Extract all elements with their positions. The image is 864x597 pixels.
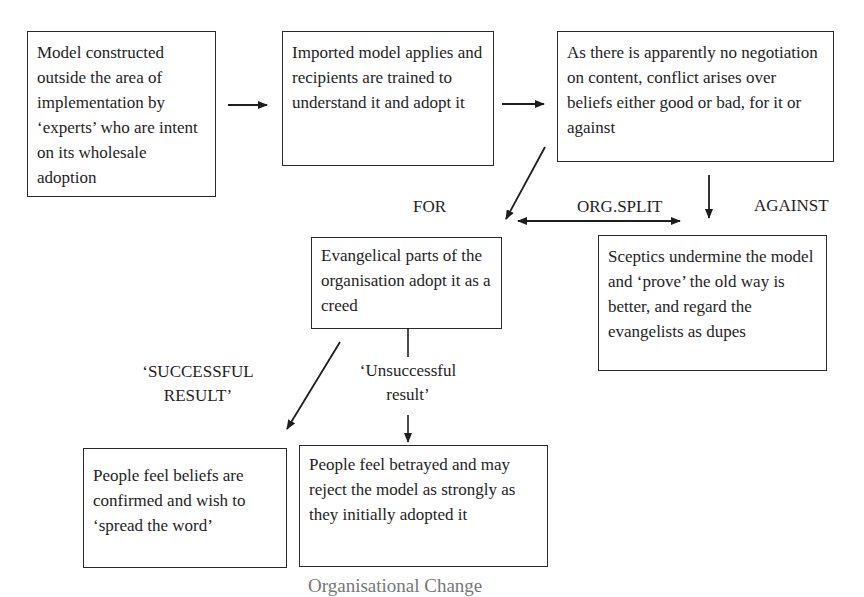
- label-against: AGAINST: [754, 194, 829, 218]
- box-model-constructed: Model constructed outside the area of im…: [27, 31, 216, 197]
- figure-caption-clipped: Organisational Change: [308, 575, 482, 597]
- box-evangelical-text: Evangelical parts of the organisation ad…: [321, 246, 491, 315]
- figure-caption-text: Organisational Change: [308, 575, 482, 596]
- label-unsuccessful-line2: result’: [343, 383, 473, 407]
- box-imported-model: Imported model applies and recipients ar…: [282, 31, 494, 166]
- box-betrayed: People feel betrayed and may reject the …: [299, 445, 548, 567]
- box-sceptics: Sceptics undermine the model and ‘prove’…: [598, 235, 827, 371]
- box-model-constructed-text: Model constructed outside the area of im…: [37, 43, 198, 187]
- label-successful-result: ‘SUCCESSFUL RESULT’: [118, 360, 278, 408]
- arrow-conflict-to-for: [506, 147, 545, 219]
- box-betrayed-text: People feel betrayed and may reject the …: [309, 455, 515, 524]
- box-conflict: As there is apparently no negotiation on…: [557, 31, 834, 162]
- label-successful-line1: ‘SUCCESSFUL: [118, 360, 278, 384]
- box-beliefs-confirmed-text: People feel beliefs are confirmed and wi…: [93, 466, 246, 535]
- arrow-evangelical-to-successful: [287, 342, 340, 429]
- box-conflict-text: As there is apparently no negotiation on…: [567, 43, 818, 137]
- box-evangelical: Evangelical parts of the organisation ad…: [311, 237, 502, 329]
- box-sceptics-text: Sceptics undermine the model and ‘prove’…: [608, 247, 813, 341]
- box-beliefs-confirmed: People feel beliefs are confirmed and wi…: [83, 448, 287, 568]
- label-for: FOR: [413, 195, 446, 219]
- label-org-split: ORG.SPLIT: [577, 195, 662, 219]
- label-successful-line2: RESULT’: [118, 384, 278, 408]
- label-unsuccessful-line1: ‘Unsuccessful: [343, 359, 473, 383]
- label-unsuccessful-result: ‘Unsuccessful result’: [343, 359, 473, 407]
- box-imported-model-text: Imported model applies and recipients ar…: [292, 43, 482, 112]
